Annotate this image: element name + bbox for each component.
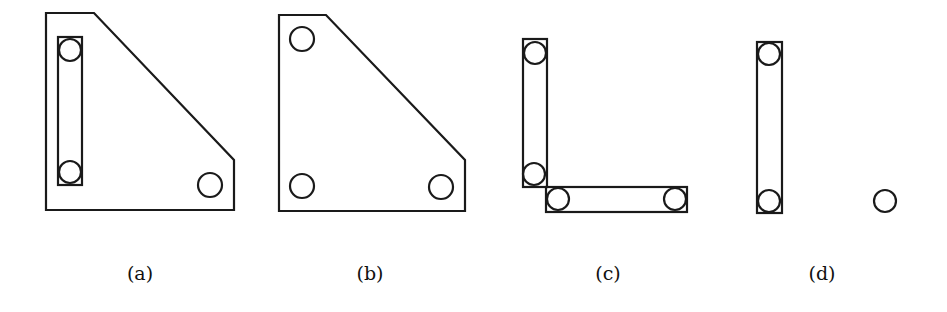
panel-b xyxy=(279,15,465,211)
hole-d-bottom xyxy=(758,190,780,212)
panel-d xyxy=(757,42,896,213)
panel-a xyxy=(46,13,234,210)
panel-label-a: (a) xyxy=(127,262,153,284)
hole-a-bottom xyxy=(59,161,81,183)
hole-b-bottom-left xyxy=(290,174,314,198)
hole-c-bottom-right xyxy=(664,188,686,210)
vertical-link-d xyxy=(757,42,782,213)
figure-canvas: (a) (b) (c) (d) xyxy=(0,0,947,312)
panel-label-b: (b) xyxy=(357,262,384,284)
panel-c xyxy=(523,39,687,212)
hole-a-right xyxy=(198,173,222,197)
panel-label-d: (d) xyxy=(809,262,836,284)
hole-c-top xyxy=(524,42,546,64)
plate-outline-a xyxy=(46,13,234,210)
hole-d-lone xyxy=(874,190,896,212)
hole-b-top xyxy=(290,27,314,51)
panel-label-c: (c) xyxy=(595,262,620,284)
slot-link-a xyxy=(58,37,82,185)
hole-c-bottom-left xyxy=(547,188,569,210)
hole-b-bottom-right xyxy=(429,175,453,199)
plate-outline-b xyxy=(279,15,465,211)
hole-c-middle xyxy=(523,163,545,185)
hole-d-top xyxy=(758,43,780,65)
horizontal-link-c xyxy=(546,187,687,212)
hole-a-top xyxy=(59,39,81,61)
